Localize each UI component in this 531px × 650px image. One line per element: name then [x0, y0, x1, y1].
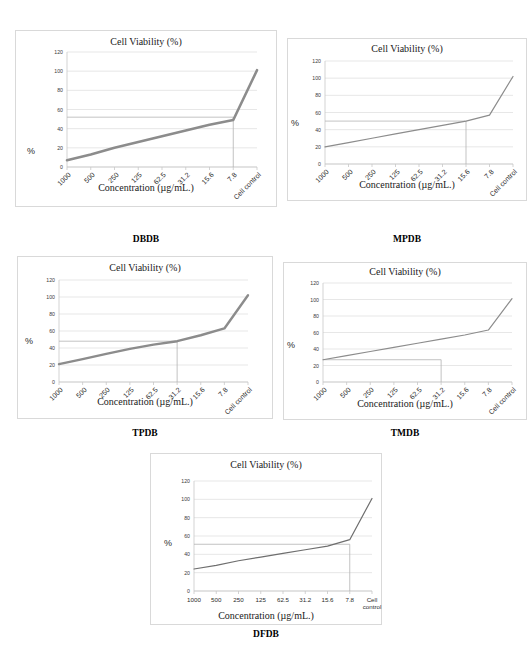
- y-axis-tick-label: 80: [285, 313, 319, 319]
- y-axis-title-dfdb: %: [164, 538, 172, 548]
- plot-svg-tmdb: [323, 283, 512, 382]
- data-series-line: [67, 70, 257, 160]
- plot-area-dfdb: 020406080100120100050025012562.531.215.6…: [194, 481, 372, 591]
- chart-panel-tmdb: Cell Viability (%)0204060801001201000500…: [283, 262, 527, 420]
- x-axis-tick-label: 62.5: [277, 596, 289, 603]
- y-axis-title-mpdb: %: [291, 118, 299, 128]
- plot-area-tpdb: 020406080100120100050025012562.531.215.6…: [59, 280, 248, 382]
- x-axis-title-dbdb: Concentration (µg/mL.): [15, 182, 277, 193]
- y-axis-title-dbdb: %: [27, 146, 35, 156]
- y-axis-tick-label: 40: [17, 126, 63, 132]
- y-axis-tick-label: 20: [285, 363, 319, 369]
- x-axis-tick-label: 15.6: [321, 596, 333, 603]
- plot-area-dbdb: 020406080100120100050025012562.531.215.6…: [67, 52, 257, 167]
- panel-caption-mpdb: MPDB: [287, 234, 527, 244]
- x-axis-tick-label: 500: [211, 596, 221, 603]
- plot-svg-dfdb: [194, 481, 372, 591]
- chart-panel-mpdb: Cell Viability (%)0204060801001201000500…: [287, 38, 527, 201]
- y-axis-tick-label: 20: [152, 570, 190, 576]
- y-axis-tick-label: 100: [19, 294, 55, 300]
- y-axis-tick-label: 0: [285, 379, 319, 385]
- y-axis-title-tpdb: %: [25, 336, 33, 346]
- chart-title-dfdb: Cell Viability (%): [150, 459, 382, 470]
- panel-caption-tmdb: TMDB: [283, 428, 527, 438]
- y-axis-tick-label: 0: [17, 164, 63, 170]
- y-axis-tick-label: 0: [289, 161, 321, 167]
- chart-title-tpdb: Cell Viability (%): [17, 262, 273, 273]
- y-axis-tick-label: 20: [19, 362, 55, 368]
- x-axis-title-tmdb: Concentration (µg/mL.): [283, 398, 527, 409]
- y-axis-tick-label: 80: [17, 87, 63, 93]
- x-axis-tick-label: 31.2: [299, 596, 311, 603]
- y-axis-tick-label: 100: [285, 297, 319, 303]
- x-axis-tick-label: 250: [233, 596, 243, 603]
- x-axis-tick-label: 125: [256, 596, 266, 603]
- chart-panel-dfdb: Cell Viability (%)0204060801001201000500…: [150, 453, 382, 625]
- y-axis-tick-label: 120: [17, 49, 63, 55]
- y-axis-tick-label: 0: [19, 379, 55, 385]
- x-axis-tick-label: 7.8: [345, 596, 354, 603]
- y-axis-tick-label: 120: [289, 58, 321, 64]
- plot-svg-tpdb: [59, 280, 248, 382]
- y-axis-tick-label: 120: [19, 277, 55, 283]
- plot-area-mpdb: 020406080100120100050025012562.531.215.6…: [325, 61, 513, 164]
- chart-panel-dbdb: Cell Viability (%)0204060801001201000500…: [15, 30, 277, 207]
- panel-caption-dfdb: DFDB: [150, 629, 382, 639]
- plot-svg-mpdb: [325, 61, 513, 164]
- data-series-line: [194, 498, 372, 569]
- y-axis-tick-label: 20: [17, 145, 63, 151]
- y-axis-tick-label: 20: [289, 144, 321, 150]
- data-series-line: [325, 76, 513, 146]
- y-axis-tick-label: 80: [289, 92, 321, 98]
- y-axis-tick-label: 120: [285, 280, 319, 286]
- figure-cell-viability-panels: Cell Viability (%)0204060801001201000500…: [0, 0, 531, 650]
- y-axis-tick-label: 80: [19, 311, 55, 317]
- x-axis-tick-label: 1000: [187, 596, 201, 603]
- y-axis-tick-label: 100: [152, 496, 190, 502]
- plot-svg-dbdb: [67, 52, 257, 167]
- chart-title-mpdb: Cell Viability (%): [287, 43, 527, 54]
- y-axis-tick-label: 60: [289, 110, 321, 116]
- chart-title-dbdb: Cell Viability (%): [15, 36, 277, 47]
- y-axis-tick-label: 80: [152, 515, 190, 521]
- x-axis-title-dfdb: Concentration (µg/mL.): [150, 610, 382, 621]
- x-axis-title-tpdb: Concentration (µg/mL.): [17, 396, 273, 407]
- panel-caption-tpdb: TPDB: [17, 428, 273, 438]
- chart-panel-tpdb: Cell Viability (%)0204060801001201000500…: [17, 256, 273, 419]
- y-axis-tick-label: 100: [17, 68, 63, 74]
- panel-caption-dbdb: DBDB: [15, 234, 277, 244]
- y-axis-tick-label: 40: [152, 551, 190, 557]
- x-axis-title-mpdb: Concentration (µg/mL.): [287, 179, 527, 190]
- y-axis-tick-label: 60: [19, 328, 55, 334]
- x-axis-tick-label: Cell control: [359, 596, 385, 610]
- y-axis-tick-label: 60: [285, 330, 319, 336]
- y-axis-title-tmdb: %: [287, 340, 295, 350]
- data-series-line: [59, 295, 248, 364]
- y-axis-tick-label: 120: [152, 478, 190, 484]
- y-axis-tick-label: 0: [152, 588, 190, 594]
- chart-title-tmdb: Cell Viability (%): [283, 266, 527, 277]
- plot-area-tmdb: 020406080100120100050025012562.531.215.6…: [323, 283, 512, 382]
- y-axis-tick-label: 60: [17, 107, 63, 113]
- data-series-line: [323, 299, 512, 360]
- y-axis-tick-label: 100: [289, 75, 321, 81]
